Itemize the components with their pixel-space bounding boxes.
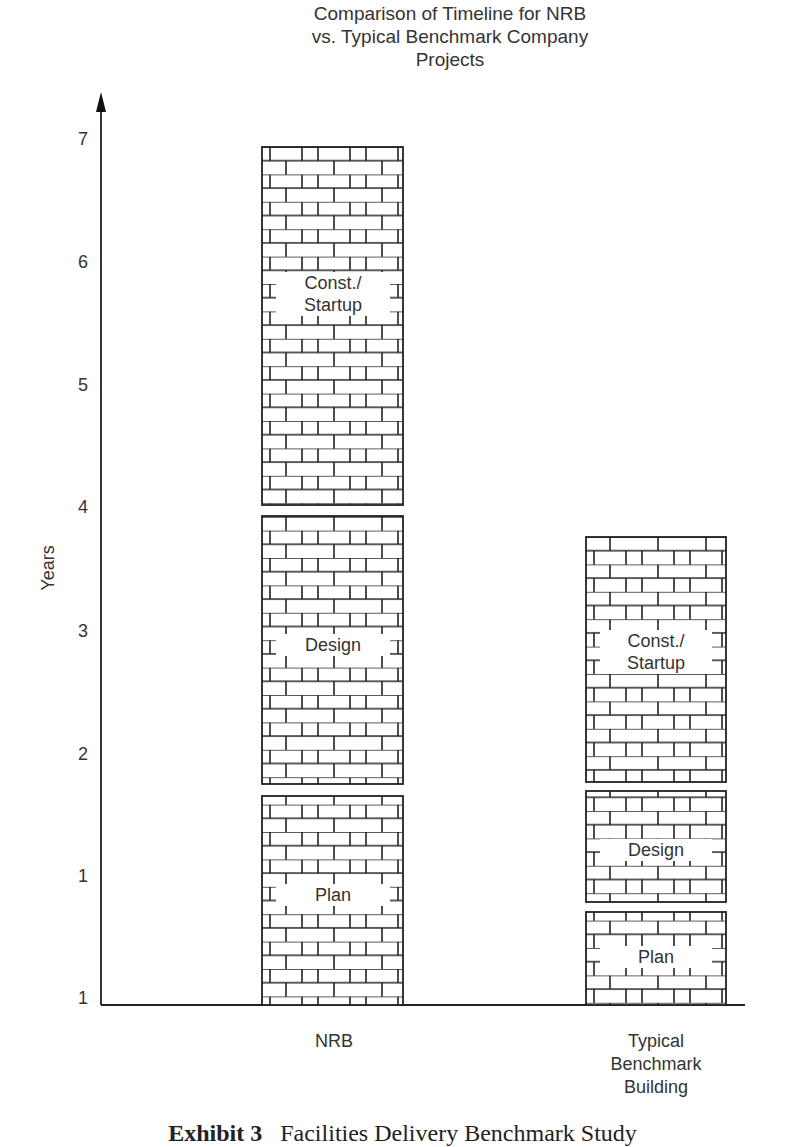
axis-arrow-icon <box>96 92 106 112</box>
label-line: Building <box>576 1076 736 1099</box>
segment-nrb-const-startup <box>262 147 403 505</box>
y-axis <box>96 92 106 1005</box>
y-tick-1: 1 <box>58 866 88 887</box>
label-nrb-plan: Plan <box>276 884 390 906</box>
caption-exhibit-number: Exhibit 3 <box>168 1120 262 1146</box>
y-tick-7: 7 <box>58 129 88 150</box>
bar-benchmark <box>586 537 726 1005</box>
label-benchmark-design: Design <box>600 839 712 861</box>
y-tick-6: 6 <box>58 252 88 273</box>
x-label-benchmark: Typical Benchmark Building <box>576 1030 736 1099</box>
y-axis-label: Years <box>38 538 59 598</box>
label-line: Const./ <box>600 630 712 652</box>
y-tick-5: 5 <box>58 375 88 396</box>
x-label-nrb: NRB <box>254 1030 414 1053</box>
y-tick-0: 1 <box>58 988 88 1009</box>
label-benchmark-plan: Plan <box>600 946 712 968</box>
label-line: Startup <box>276 294 390 316</box>
y-tick-3: 3 <box>58 621 88 642</box>
label-line: Benchmark <box>576 1053 736 1076</box>
y-tick-4: 4 <box>58 497 88 518</box>
figure-caption: Exhibit 3 Facilities Delivery Benchmark … <box>0 1120 805 1147</box>
label-line: Typical <box>576 1030 736 1053</box>
caption-text: Facilities Delivery Benchmark Study <box>280 1120 637 1146</box>
label-benchmark-const-startup: Const./ Startup <box>600 630 712 674</box>
label-line: Startup <box>600 652 712 674</box>
label-nrb-design: Design <box>276 634 390 656</box>
y-tick-2: 2 <box>58 744 88 765</box>
label-nrb-const-startup: Const./ Startup <box>276 272 390 316</box>
label-line: Const./ <box>276 272 390 294</box>
